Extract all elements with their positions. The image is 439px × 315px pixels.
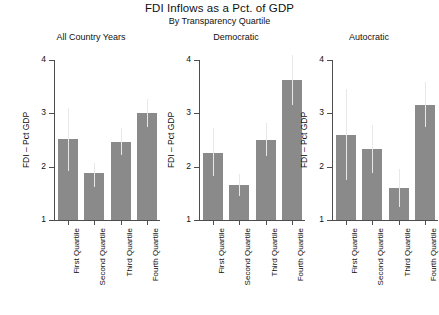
y-axis-tick bbox=[194, 60, 199, 61]
panel-all-country-years: All Country YearsFDI – Pct GDP1234First … bbox=[22, 32, 160, 315]
y-axis-tick-label: 2 bbox=[179, 161, 191, 171]
y-axis-tick-label: 4 bbox=[312, 54, 324, 64]
x-axis-tick-label: First Quartile bbox=[72, 228, 81, 274]
y-axis-label: FDI – Pct GDP bbox=[297, 60, 311, 220]
y-axis-tick-label: 3 bbox=[312, 107, 324, 117]
bar-series bbox=[200, 60, 305, 220]
y-axis-tick bbox=[327, 113, 332, 114]
x-axis-tick-label: Third Quartile bbox=[125, 228, 134, 276]
x-axis-tick-label: First Quartile bbox=[217, 228, 226, 274]
chart-subtitle: By Transparency Quartile bbox=[0, 16, 439, 26]
y-axis-tick-label: 2 bbox=[34, 161, 46, 171]
error-bar bbox=[147, 99, 148, 127]
plot-area: 1234First QuartileSecond QuartileThird Q… bbox=[314, 60, 438, 220]
error-bar bbox=[372, 125, 373, 173]
y-axis-tick-label: 1 bbox=[312, 214, 324, 224]
error-bar bbox=[346, 89, 347, 180]
panel-title: All Country Years bbox=[22, 32, 160, 42]
chart-figure: FDI Inflows as a Pct. of GDP By Transpar… bbox=[0, 0, 439, 315]
y-axis-tick bbox=[327, 60, 332, 61]
y-axis-tick bbox=[49, 167, 54, 168]
x-axis-line bbox=[332, 220, 438, 221]
error-bar bbox=[213, 128, 214, 176]
error-bar bbox=[94, 163, 95, 186]
y-axis-tick-label: 3 bbox=[179, 107, 191, 117]
y-axis-label-text: FDI – Pct GDP bbox=[299, 112, 309, 168]
error-bar bbox=[399, 169, 400, 207]
panel-democratic: DemocraticFDI – Pct GDP1234First Quartil… bbox=[167, 32, 305, 315]
x-axis-tick-label: Fourth Quartile bbox=[429, 228, 438, 281]
x-axis-tick bbox=[266, 221, 267, 225]
error-bar bbox=[266, 123, 267, 156]
y-axis-tick bbox=[194, 167, 199, 168]
y-axis-tick-label: 1 bbox=[34, 214, 46, 224]
plot-area: 1234First QuartileSecond QuartileThird Q… bbox=[181, 60, 305, 220]
x-axis-tick bbox=[372, 221, 373, 225]
panel-title: Autocratic bbox=[300, 32, 438, 42]
y-axis-tick-label: 4 bbox=[34, 54, 46, 64]
y-axis-tick bbox=[49, 60, 54, 61]
panel-title: Democratic bbox=[167, 32, 305, 42]
x-axis-tick bbox=[292, 221, 293, 225]
x-axis-tick-label: Fourth Quartile bbox=[151, 228, 160, 281]
bar bbox=[137, 113, 157, 220]
plot-area: 1234First QuartileSecond QuartileThird Q… bbox=[36, 60, 160, 220]
y-axis-tick bbox=[49, 113, 54, 114]
y-axis-label: FDI – Pct GDP bbox=[164, 60, 178, 220]
y-axis-label-text: FDI – Pct GDP bbox=[21, 112, 31, 168]
error-bar bbox=[239, 174, 240, 196]
y-axis-tick bbox=[327, 167, 332, 168]
x-axis-tick bbox=[121, 221, 122, 225]
x-axis-tick bbox=[147, 221, 148, 225]
x-axis-tick-label: First Quartile bbox=[350, 228, 359, 274]
error-bar bbox=[292, 55, 293, 105]
x-axis-tick-label: Third Quartile bbox=[403, 228, 412, 276]
y-axis-tick-label: 3 bbox=[34, 107, 46, 117]
error-bar bbox=[68, 108, 69, 171]
chart-title: FDI Inflows as a Pct. of GDP bbox=[0, 2, 439, 14]
x-axis-tick bbox=[68, 221, 69, 225]
x-axis-tick bbox=[239, 221, 240, 225]
x-axis-tick bbox=[94, 221, 95, 225]
bar-series bbox=[55, 60, 160, 220]
y-axis-label: FDI – Pct GDP bbox=[19, 60, 33, 220]
x-axis-tick bbox=[425, 221, 426, 225]
x-axis-tick bbox=[346, 221, 347, 225]
x-axis-line bbox=[54, 220, 160, 221]
error-bar bbox=[121, 128, 122, 155]
x-axis-tick bbox=[213, 221, 214, 225]
x-axis-line bbox=[199, 220, 305, 221]
x-axis-tick-label: Third Quartile bbox=[270, 228, 279, 276]
bar-series bbox=[333, 60, 438, 220]
x-axis-tick-label: Second Quartile bbox=[98, 228, 107, 285]
y-axis-label-text: FDI – Pct GDP bbox=[166, 112, 176, 168]
y-axis-tick-label: 4 bbox=[179, 54, 191, 64]
y-axis-tick-label: 1 bbox=[179, 214, 191, 224]
y-axis-tick-label: 2 bbox=[312, 161, 324, 171]
x-axis-tick-label: Second Quartile bbox=[243, 228, 252, 285]
y-axis-tick bbox=[194, 113, 199, 114]
x-axis-tick-label: Second Quartile bbox=[376, 228, 385, 285]
error-bar bbox=[425, 82, 426, 127]
panel-autocratic: AutocraticFDI – Pct GDP1234First Quartil… bbox=[300, 32, 438, 315]
x-axis-tick bbox=[399, 221, 400, 225]
